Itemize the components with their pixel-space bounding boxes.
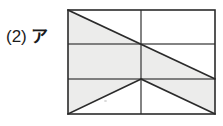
figure-page: (2) ア <box>0 0 223 126</box>
geometry-figure <box>0 0 223 126</box>
shaded-region-middle-left-cell <box>68 44 141 79</box>
rectangle-diagram-svg <box>0 0 223 126</box>
paper-speck <box>104 100 107 102</box>
